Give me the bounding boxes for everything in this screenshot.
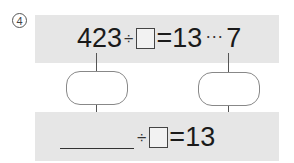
left-connector-top (96, 53, 97, 72)
bottom-equation: ÷ = 13 (135, 122, 215, 152)
problem-number: 4 (12, 13, 27, 28)
right-connector-top (228, 53, 229, 72)
divisor-answer-box[interactable] (136, 28, 155, 49)
left-oval-answer[interactable] (66, 71, 128, 105)
dividend-answer-blank[interactable] (60, 148, 134, 149)
divide-sign: ÷ (124, 30, 133, 47)
remainder-separator: ··· (205, 27, 223, 45)
right-oval-answer[interactable] (198, 72, 260, 106)
dividend: 423 (77, 25, 122, 52)
equals-sign: = (156, 25, 172, 52)
quotient: 13 (185, 124, 215, 151)
quotient: 13 (172, 25, 202, 52)
equals-sign: = (169, 124, 185, 151)
divide-sign: ÷ (137, 129, 146, 146)
remainder: 7 (226, 25, 241, 52)
top-equation: 423 ÷ = 13 ··· 7 (77, 23, 241, 53)
divisor-answer-box[interactable] (149, 127, 168, 148)
